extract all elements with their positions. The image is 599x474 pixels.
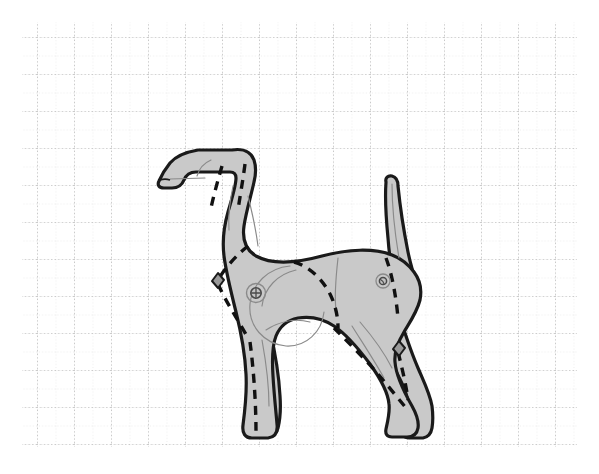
diagram-canvas: Dog Body Pattern Diagram lateral-left (0, 0, 599, 474)
dog-pattern-diagram: Dog Body Pattern Diagram lateral-left (0, 0, 599, 474)
grid-major (22, 22, 577, 447)
nose-notch (160, 179, 170, 180)
grid-layer (22, 22, 577, 447)
